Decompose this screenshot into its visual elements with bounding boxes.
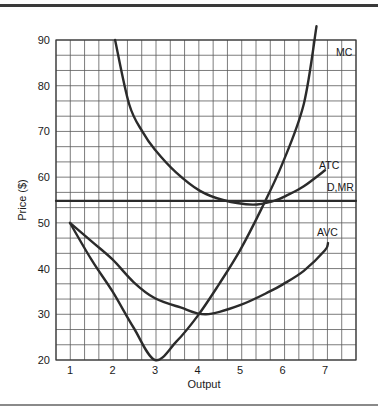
x-tick-label: 4 <box>194 364 200 376</box>
x-tick-label: 7 <box>322 364 328 376</box>
x-tick-label: 3 <box>152 364 158 376</box>
x-tick-label: 6 <box>279 364 285 376</box>
y-tick-label: 80 <box>38 80 50 92</box>
x-tick-label: 2 <box>109 364 115 376</box>
x-axis-label: Output <box>187 378 220 390</box>
y-tick-label: 20 <box>38 354 50 366</box>
x-tick-label: 5 <box>237 364 243 376</box>
y-tick-label: 30 <box>38 308 50 320</box>
curves <box>56 26 356 360</box>
atc-label: ATC <box>319 159 340 171</box>
y-tick-label: 60 <box>38 171 50 183</box>
x-axis-ticks: 1234567 <box>67 364 328 376</box>
x-tick-label: 1 <box>67 364 73 376</box>
atc-curve <box>115 40 325 205</box>
y-tick-label: 50 <box>38 217 50 229</box>
y-tick-label: 70 <box>38 125 50 137</box>
avc-label: AVC <box>317 226 338 238</box>
mc-label: MC <box>336 46 353 58</box>
mc-curve <box>70 26 317 360</box>
y-tick-label: 40 <box>38 263 50 275</box>
cost-curves-chart: 2030405060708090 1234567 MC ATC D,MR AVC… <box>0 0 378 408</box>
y-tick-label: 90 <box>38 34 50 46</box>
y-axis-label: Price ($) <box>16 179 28 221</box>
y-axis-ticks: 2030405060708090 <box>38 34 50 366</box>
dmr-label: D,MR <box>327 181 354 193</box>
